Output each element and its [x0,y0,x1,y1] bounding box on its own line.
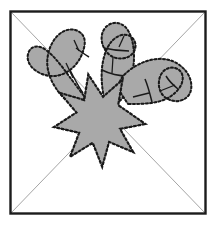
figure-svg: Burst with three radiating hook shapes i… [0,0,216,225]
diagram-canvas: Burst with three radiating hook shapes i… [0,0,216,225]
